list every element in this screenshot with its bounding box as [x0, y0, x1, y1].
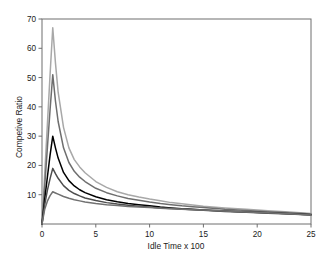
series-line	[42, 168, 311, 224]
y-axis-title: Competive Ratio	[14, 96, 24, 158]
series-line	[42, 28, 311, 224]
x-tick-label: 15	[199, 230, 209, 239]
y-tick-label: 50	[27, 74, 37, 83]
chart-figure: 0510152025 10203040506070 Idle Time x 10…	[0, 0, 327, 262]
x-tick-label: 20	[253, 230, 263, 239]
x-tick-label: 10	[145, 230, 155, 239]
y-tick-label: 40	[27, 103, 37, 112]
x-tick-label: 25	[306, 230, 316, 239]
y-tick-label: 10	[27, 191, 37, 200]
y-tick-labels: 10203040506070	[27, 15, 37, 200]
x-tick-label: 5	[94, 230, 99, 239]
x-tick-labels: 0510152025	[40, 230, 316, 239]
y-tick-label: 20	[27, 161, 37, 170]
y-tick-label: 70	[27, 15, 37, 24]
x-axis-title: Idle Time x 100	[148, 241, 205, 251]
x-tick-label: 0	[40, 230, 45, 239]
series-lines	[42, 28, 311, 224]
plot-frame	[42, 19, 311, 224]
y-tick-label: 30	[27, 132, 37, 141]
line-chart: 0510152025 10203040506070 Idle Time x 10…	[0, 0, 327, 262]
y-tick-label: 60	[27, 44, 37, 53]
